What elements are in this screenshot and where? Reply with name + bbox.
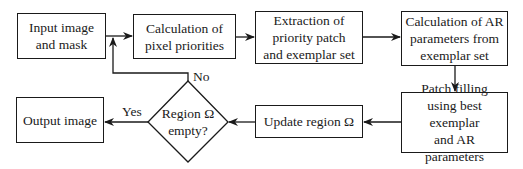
node-label: Calculation of AR — [405, 13, 503, 30]
decision-label: Region Ω — [148, 105, 228, 122]
node-label: using best exemplar — [404, 97, 505, 131]
edge-label-yes: Yes — [122, 104, 142, 120]
node-label: Update region Ω — [264, 113, 354, 130]
node-calculation-pixel-priorities: Calculation of pixel priorities — [133, 14, 236, 59]
node-label: and AR parameters — [404, 131, 505, 165]
node-patch-filling: Patch filling using best exemplar and AR… — [401, 92, 508, 153]
node-decision-region-empty: Region Ω empty? — [148, 105, 228, 139]
edge-label-no: No — [193, 69, 210, 85]
node-extraction-priority-patch: Extraction of priority patch and exempla… — [255, 11, 363, 64]
node-label: and exemplar set — [263, 46, 354, 63]
node-update-region: Update region Ω — [255, 105, 363, 138]
node-input-image-and-mask: Input image and mask — [17, 13, 106, 59]
node-label: Patch filling — [404, 80, 505, 97]
decision-label: empty? — [148, 122, 228, 139]
node-label: Calculation of — [145, 20, 224, 37]
node-label: Input image — [29, 19, 94, 36]
node-label: priority patch — [263, 29, 354, 46]
node-label: pixel priorities — [145, 37, 224, 54]
node-label: and mask — [29, 36, 94, 53]
node-label: exemplar set — [405, 47, 503, 64]
node-calculation-ar-parameters: Calculation of AR parameters from exempl… — [401, 11, 508, 66]
node-label: Output image — [23, 112, 97, 129]
node-label: Extraction of — [263, 12, 354, 29]
node-output-image: Output image — [16, 97, 104, 143]
node-label: parameters from — [405, 30, 503, 47]
